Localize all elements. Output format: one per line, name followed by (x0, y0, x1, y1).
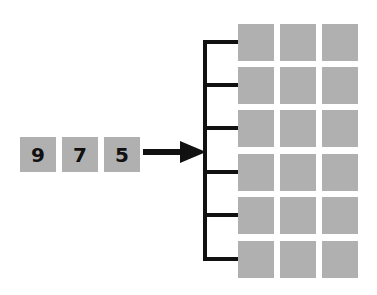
grid-cell (322, 154, 358, 191)
grid-cell (280, 154, 316, 191)
grid-cell (322, 110, 358, 147)
arrow-icon (143, 141, 206, 163)
grid-cell (322, 67, 358, 104)
grid-cell (238, 24, 274, 61)
grid-cell (238, 197, 274, 234)
grid-cell (280, 197, 316, 234)
bracket (203, 40, 238, 261)
grid-cell (238, 241, 274, 278)
grid-cell (322, 24, 358, 61)
grid-cell (238, 110, 274, 147)
grid-cell (322, 241, 358, 278)
grid-cell (280, 110, 316, 147)
grid-cell (238, 67, 274, 104)
arrow-and-bracket (0, 0, 377, 295)
grid-cell (280, 24, 316, 61)
grid-cell (280, 67, 316, 104)
grid-cell (238, 154, 274, 191)
grid-cell (322, 197, 358, 234)
grid-cell (280, 241, 316, 278)
